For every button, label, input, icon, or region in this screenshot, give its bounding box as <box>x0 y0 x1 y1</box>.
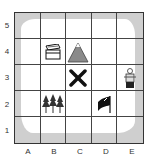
cell-c2[interactable] <box>66 91 92 117</box>
treasure-chest-icon <box>44 44 62 60</box>
col-label-d: D <box>93 147 119 156</box>
col-label-c: C <box>67 147 93 156</box>
grid <box>15 13 143 143</box>
forest-icon <box>42 94 64 114</box>
cell-b1[interactable] <box>41 117 67 143</box>
cell-a5[interactable] <box>15 13 41 39</box>
col-label-a: A <box>15 147 41 156</box>
cell-d1[interactable] <box>92 117 118 143</box>
row-label-1: 1 <box>3 126 11 135</box>
treasure-map-grid <box>14 12 144 144</box>
row-label-3: 3 <box>3 73 11 82</box>
flag-icon <box>95 94 113 114</box>
mountain-icon <box>67 41 89 63</box>
cell-c4[interactable] <box>66 39 92 65</box>
cell-e3[interactable] <box>117 65 143 91</box>
row-label-2: 2 <box>3 100 11 109</box>
x-mark-icon <box>69 69 87 87</box>
col-label-b: B <box>41 147 67 156</box>
cell-d2[interactable] <box>92 91 118 117</box>
row-label-5: 5 <box>3 21 11 30</box>
cell-e5[interactable] <box>117 13 143 39</box>
cell-c1[interactable] <box>66 117 92 143</box>
cell-d4[interactable] <box>92 39 118 65</box>
cell-e1[interactable] <box>117 117 143 143</box>
cell-b4[interactable] <box>41 39 67 65</box>
cell-e4[interactable] <box>117 39 143 65</box>
col-label-e: E <box>119 147 145 156</box>
cell-a2[interactable] <box>15 91 41 117</box>
cell-d5[interactable] <box>92 13 118 39</box>
cell-c3[interactable] <box>66 65 92 91</box>
cell-a1[interactable] <box>15 117 41 143</box>
pirate-icon <box>123 67 137 89</box>
cell-c5[interactable] <box>66 13 92 39</box>
cell-d3[interactable] <box>92 65 118 91</box>
cell-b2[interactable] <box>41 91 67 117</box>
cell-b3[interactable] <box>41 65 67 91</box>
row-label-4: 4 <box>3 47 11 56</box>
cell-e2[interactable] <box>117 91 143 117</box>
cell-a3[interactable] <box>15 65 41 91</box>
cell-b5[interactable] <box>41 13 67 39</box>
cell-a4[interactable] <box>15 39 41 65</box>
